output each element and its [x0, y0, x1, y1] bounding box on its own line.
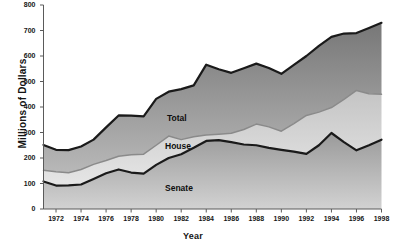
- y-tick-label: 300: [10, 129, 36, 136]
- series-label-senate: Senate: [165, 183, 193, 193]
- y-tick-label: 700: [10, 27, 36, 34]
- series-label-house: House: [165, 141, 191, 151]
- series-label-total: Total: [167, 113, 187, 123]
- y-tick-label: 200: [10, 154, 36, 161]
- y-tick-label: 100: [10, 180, 36, 187]
- y-tick-label: 600: [10, 52, 36, 59]
- y-tick-label: 500: [10, 78, 36, 85]
- x-axis-title: Year: [0, 231, 386, 241]
- y-tick-label: 800: [10, 1, 36, 8]
- y-tick-label: 400: [10, 103, 36, 110]
- y-tick-label: 0: [10, 205, 36, 212]
- x-tick-label: 1998: [367, 215, 394, 222]
